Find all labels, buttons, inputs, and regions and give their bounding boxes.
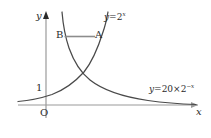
curve-label-growth-exponent: x xyxy=(122,11,125,17)
y-axis-arrowhead xyxy=(43,11,49,19)
curve-label-decay: y=20×2−x xyxy=(149,84,194,94)
y-axis-label: y xyxy=(36,11,42,21)
origin-label: O xyxy=(40,108,48,118)
curve-label-decay-equals: = xyxy=(154,84,162,94)
curve-label-growth: y=2x xyxy=(104,12,126,22)
curve-label-decay-exponent: −x xyxy=(186,83,194,89)
x-axis-label: x xyxy=(196,107,202,117)
point-label-a: A xyxy=(95,30,102,40)
curve-label-decay-coefficient: 20 xyxy=(162,84,173,94)
math-diagram-figure: y x O 1 A B y=2x y=20×2−x xyxy=(0,0,211,138)
y-axis-tick-label-1: 1 xyxy=(36,83,42,93)
curve-label-decay-times: × xyxy=(173,84,181,94)
point-label-b: B xyxy=(56,30,63,40)
curve-label-growth-equals: = xyxy=(109,12,117,22)
